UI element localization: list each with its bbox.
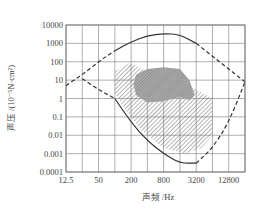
x-tick-labels: 12.550200800320012800 [59, 175, 240, 185]
y-tick-label: 10000 [42, 20, 63, 30]
y-tick-label: 0.0001 [40, 167, 63, 177]
x-axis-label: 声频 /Hz [142, 192, 175, 202]
dashed-boundary-curve [196, 43, 245, 82]
y-tick-label: 0.1 [52, 112, 63, 122]
y-tick-label: 10 [55, 75, 64, 85]
y-axis-label: 声压 /(10⁻⁵N·cm²) [6, 65, 16, 131]
x-tick-label: 12800 [218, 175, 239, 185]
x-tick-label: 50 [94, 175, 103, 185]
threshold-curve [115, 34, 196, 51]
y-tick-label: 0.001 [44, 149, 63, 159]
x-tick-label: 800 [157, 175, 170, 185]
x-tick-label: 3200 [188, 175, 205, 185]
y-tick-label: 100 [50, 57, 63, 67]
dashed-boundary-curve [66, 51, 115, 86]
music-region [133, 67, 194, 102]
regions [115, 64, 213, 154]
y-tick-label: 0.01 [48, 130, 63, 140]
y-tick-labels: 1000010001001010.10.010.0010.0001 [40, 20, 63, 177]
audibility-chart: 12.550200800320012800 1000010001001010.1… [0, 0, 260, 218]
x-tick-label: 200 [125, 175, 138, 185]
y-tick-label: 1 [59, 94, 63, 104]
y-tick-label: 1000 [46, 38, 63, 48]
